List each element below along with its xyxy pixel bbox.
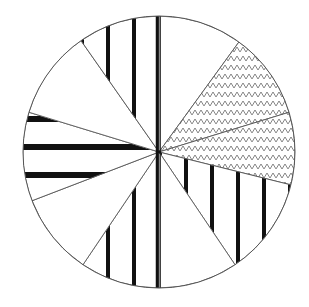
center-dot [157, 150, 161, 154]
pie-chart-svg [0, 0, 309, 307]
pie-chart [0, 0, 309, 307]
